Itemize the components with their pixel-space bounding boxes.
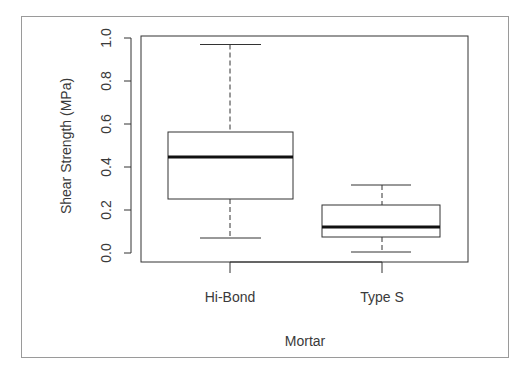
y-tick-label: 0.4 bbox=[98, 157, 114, 177]
iqr-box bbox=[322, 205, 440, 237]
y-tick-label: 1.0 bbox=[98, 28, 114, 48]
boxplot-chart: 0.0 0.2 0.4 0.6 0.8 1.0 Shear Strength (… bbox=[0, 0, 526, 373]
x-tick-label-hi-bond: Hi-Bond bbox=[205, 289, 256, 305]
y-tick-label: 0.2 bbox=[98, 200, 114, 220]
y-axis-title: Shear Strength (MPa) bbox=[58, 78, 74, 214]
y-tick-label: 0.0 bbox=[98, 243, 114, 263]
x-tick-label-type-s: Type S bbox=[360, 289, 404, 305]
y-tick-label: 0.8 bbox=[98, 71, 114, 91]
x-axis-title: Mortar bbox=[285, 333, 326, 349]
box-hi-bond bbox=[168, 45, 293, 239]
y-axis bbox=[124, 38, 131, 253]
y-tick-labels: 0.0 0.2 0.4 0.6 0.8 1.0 bbox=[98, 28, 114, 263]
x-axis bbox=[230, 262, 382, 273]
box-type-s bbox=[322, 185, 440, 252]
iqr-box bbox=[168, 132, 293, 199]
y-tick-label: 0.6 bbox=[98, 114, 114, 134]
